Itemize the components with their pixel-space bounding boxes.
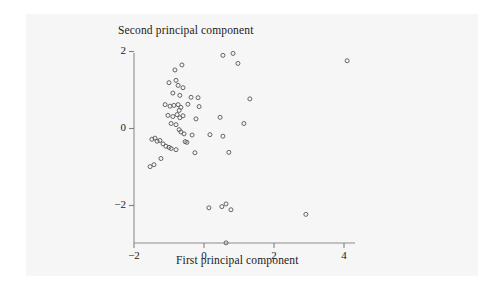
scatter-point bbox=[248, 97, 252, 101]
scatter-point bbox=[345, 59, 349, 63]
scatter-point bbox=[171, 91, 175, 95]
scatter-point bbox=[304, 212, 308, 216]
scatter-point bbox=[174, 123, 178, 127]
x-tick-label: 4 bbox=[324, 249, 364, 261]
scatter-point bbox=[221, 134, 225, 138]
scatter-point bbox=[172, 103, 176, 107]
scatter-point bbox=[159, 157, 163, 161]
scatter-point bbox=[171, 115, 175, 119]
scatter-point bbox=[207, 206, 211, 210]
scatter-point bbox=[194, 117, 198, 121]
scatter-point bbox=[218, 115, 222, 119]
scatter-point bbox=[231, 51, 235, 55]
scatter-point bbox=[208, 133, 212, 137]
x-tick-label: 2 bbox=[254, 249, 294, 261]
scatter-point bbox=[169, 122, 173, 126]
scatter-point bbox=[197, 105, 201, 109]
y-tick-label: 2 bbox=[100, 44, 126, 56]
x-axis-ticks bbox=[134, 243, 344, 248]
scatter-point bbox=[242, 122, 246, 126]
scatter-point bbox=[190, 133, 194, 137]
y-tick-label: −2 bbox=[100, 198, 126, 210]
scatter-point bbox=[220, 205, 224, 209]
scatter-point bbox=[196, 96, 200, 100]
y-axis-ticks bbox=[129, 52, 134, 206]
plot-canvas bbox=[0, 0, 502, 288]
scatter-point bbox=[148, 165, 152, 169]
scatter-point bbox=[221, 53, 225, 57]
scatter-point bbox=[229, 208, 233, 212]
x-tick-label: 0 bbox=[184, 249, 224, 261]
scatter-point bbox=[193, 151, 197, 155]
scatter-point bbox=[181, 86, 185, 90]
scatter-point bbox=[176, 83, 180, 87]
scatter-point bbox=[181, 114, 185, 118]
scatter-point bbox=[173, 68, 177, 72]
scatter-point bbox=[227, 150, 231, 154]
scatter-points-layer bbox=[148, 51, 349, 244]
scatter-point bbox=[167, 81, 171, 85]
scatter-point bbox=[163, 103, 167, 107]
scatter-point bbox=[224, 202, 228, 206]
scatter-point bbox=[182, 132, 186, 136]
scatter-point bbox=[236, 61, 240, 65]
figure-page: Second principal component First princip… bbox=[0, 0, 502, 288]
scatter-point bbox=[174, 148, 178, 152]
scatter-point bbox=[166, 113, 170, 117]
x-tick-label: −2 bbox=[114, 249, 154, 261]
scatter-point bbox=[168, 104, 172, 108]
y-tick-label: 0 bbox=[100, 121, 126, 133]
scatter-plot-figure: Second principal component First princip… bbox=[0, 0, 502, 288]
scatter-point bbox=[189, 95, 193, 99]
scatter-point bbox=[174, 78, 178, 82]
scatter-point bbox=[186, 102, 190, 106]
scatter-point bbox=[180, 63, 184, 67]
scatter-point bbox=[178, 93, 182, 97]
y-axis-title: Second principal component bbox=[118, 24, 253, 36]
scatter-point bbox=[152, 163, 156, 167]
